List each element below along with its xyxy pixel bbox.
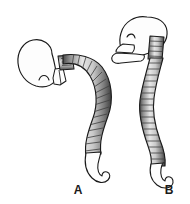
coccyx-hook-a — [85, 152, 110, 182]
skull-spine-illustration — [0, 0, 190, 204]
panel-label-b: B — [159, 184, 179, 196]
panel-label-a: A — [68, 184, 88, 196]
spine-column-outline-b — [140, 58, 166, 166]
cranium-outline-a — [18, 40, 57, 87]
cervical-spine-b — [148, 36, 164, 60]
mandible-b — [112, 53, 145, 63]
anatomical-figure-container: A B — [0, 0, 190, 204]
coccyx-a — [85, 152, 110, 182]
vertebral-column-b — [140, 58, 166, 166]
figure-b-group — [112, 17, 173, 188]
figure-a-group — [18, 40, 111, 183]
maxilla-b — [116, 44, 134, 53]
